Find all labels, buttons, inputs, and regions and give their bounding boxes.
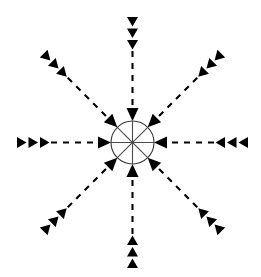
arrow-head	[154, 137, 167, 149]
diagram-canvas	[0, 0, 261, 277]
arrow-west	[17, 137, 111, 149]
arrow-tail-marker	[127, 236, 138, 246]
arrow-tail-marker	[127, 259, 138, 269]
arrow-tail-marker	[227, 137, 237, 148]
arrow-east	[154, 137, 248, 149]
arrow-tail-marker	[215, 50, 226, 61]
arrow-head	[127, 108, 139, 121]
arrow-shaft	[155, 165, 197, 207]
arrow-head	[127, 164, 139, 177]
arrow-tail-marker	[215, 225, 226, 236]
radial-convergence-diagram	[0, 0, 261, 277]
arrow-tail-marker	[127, 40, 138, 50]
arrow-tail-marker	[29, 137, 39, 148]
arrow-northwest	[40, 50, 117, 127]
arrow-north	[127, 17, 139, 121]
arrow-northeast	[148, 50, 225, 127]
hub-layer	[111, 121, 154, 164]
arrow-tail-marker	[40, 225, 51, 236]
arrow-shaft	[68, 78, 110, 120]
arrow-shaft	[155, 78, 197, 120]
arrow-southeast	[148, 158, 225, 235]
arrow-tail-marker	[40, 137, 50, 148]
arrow-south	[127, 164, 139, 268]
arrow-shaft	[68, 165, 110, 207]
arrow-tail-marker	[127, 17, 138, 27]
arrow-tail-marker	[239, 137, 249, 148]
arrow-tail-marker	[127, 29, 138, 39]
arrow-tail-marker	[127, 247, 138, 257]
arrow-head	[98, 137, 111, 149]
arrow-tail-marker	[40, 50, 51, 61]
arrow-tail-marker	[17, 137, 27, 148]
arrow-tail-marker	[216, 137, 226, 148]
arrow-southwest	[40, 158, 117, 235]
